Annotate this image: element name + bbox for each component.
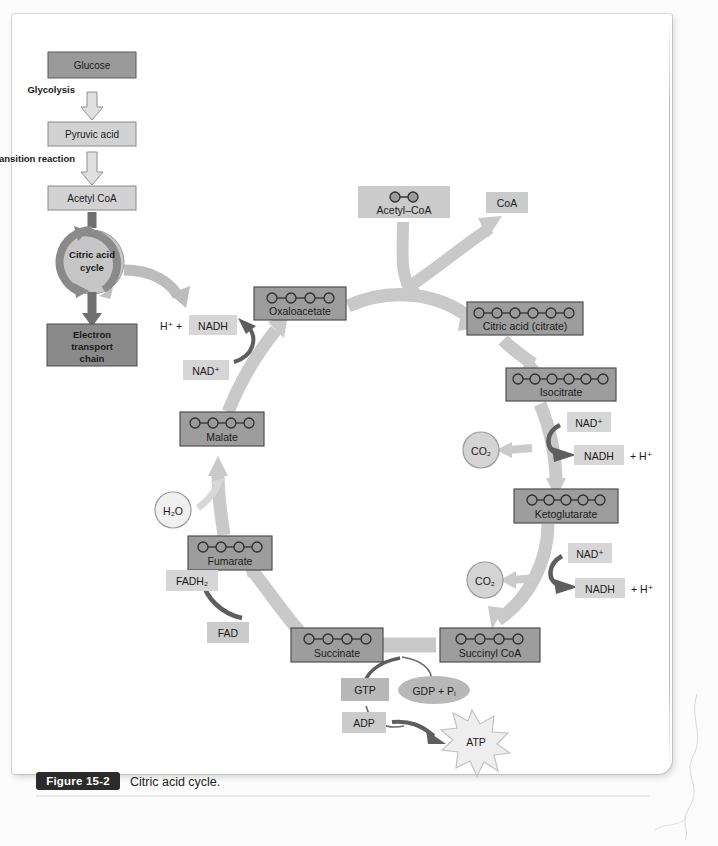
input-fad: FAD xyxy=(207,622,249,643)
overview-arrow-transition-reaction-label: Transition reaction xyxy=(0,153,75,164)
overview-step-cycle-label-line2: cycle xyxy=(80,262,104,273)
ring-arrow-coa-out xyxy=(404,216,502,290)
overview-flowchart: Glucose Glycolysis Pyruvic acid Transiti… xyxy=(0,52,190,366)
overview-step-glucose: Glucose xyxy=(48,52,136,78)
cofactor-nadh-isocitrate-suffix: + H⁺ xyxy=(630,450,652,462)
byproduct-co2-isocitrate-label: CO₂ xyxy=(471,445,491,457)
overview-arrow-cycle-to-right xyxy=(124,270,190,308)
cofactor-nadh-ketoglutarate-label: NADH xyxy=(585,583,615,595)
metabolite-oxaloacetate: Oxaloacetate xyxy=(254,287,346,320)
metabolite-isocitrate: Isocitrate xyxy=(506,368,616,401)
cofactor-nadh-ketoglutarate: NADH + H⁺ xyxy=(575,578,653,598)
energy-gdp-pi: GDP + Pᵢ xyxy=(398,676,470,704)
figure-number-label: Figure 15-2 xyxy=(46,775,110,787)
input-water: H₂O xyxy=(155,492,191,528)
input-adp: ATP ADP xyxy=(342,712,386,733)
cofactor-nadh-isocitrate-label: NADH xyxy=(584,450,614,462)
citric-acid-cycle-diagram: Glucose Glycolysis Pyruvic acid Transiti… xyxy=(0,0,718,846)
energy-gtp: GTP xyxy=(341,678,389,701)
overview-arrow-glycolysis-label: Glycolysis xyxy=(27,84,75,95)
overview-step-etc-label-line3: chain xyxy=(80,353,105,364)
metabolite-ketoglutarate: Ketoglutarate xyxy=(514,489,618,523)
overview-step-electron-transport-chain: Electron transport chain xyxy=(47,324,137,366)
byproduct-co2-ketoglutarate-label: CO₂ xyxy=(475,575,495,587)
cofactor-nad-plus-isocitrate-label: NAD⁺ xyxy=(575,417,603,429)
cofactor-nadh-isocitrate: NADH + H⁺ xyxy=(574,445,652,465)
cofactor-nad-plus-malate-label: NAD⁺ xyxy=(192,365,220,377)
overview-step-acetyl-coa-label: Acetyl CoA xyxy=(67,193,117,204)
metabolite-malate: Malate xyxy=(180,412,264,446)
cofactor-nadh-malate: H⁺ + NADH xyxy=(160,315,237,335)
cofactor-nadh-malate-label: NADH xyxy=(198,320,228,332)
metabolite-fumarate-label: Fumarate xyxy=(208,555,253,567)
metabolite-succinate-label: Succinate xyxy=(314,647,360,659)
byproduct-co2-isocitrate: CO₂ xyxy=(463,432,499,468)
overview-step-glucose-label: Glucose xyxy=(74,60,111,71)
input-acetyl-coa: Acetyl–CoA xyxy=(358,186,450,218)
input-water-label: H₂O xyxy=(163,505,183,517)
overview-connector-cycle-to-etc xyxy=(82,292,102,327)
cofactor-nad-plus-isocitrate: NAD⁺ xyxy=(567,412,611,432)
input-fad-label: FAD xyxy=(218,627,239,639)
cofactor-nad-plus-ketoglutarate-label: NAD⁺ xyxy=(576,548,604,560)
metabolite-isocitrate-label: Isocitrate xyxy=(540,386,583,398)
input-acetyl-coa-label: Acetyl–CoA xyxy=(377,204,432,216)
cofactor-fadh2: FADH₂ xyxy=(166,570,218,591)
energy-gdp-pi-label: GDP + Pᵢ xyxy=(412,685,456,697)
energy-atp: ATP xyxy=(441,710,510,776)
cofactor-fadh2-label: FADH₂ xyxy=(176,575,208,587)
metabolite-citric-acid: Citric acid (citrate) xyxy=(467,302,583,335)
overview-step-citric-acid-cycle: Citric acid cycle xyxy=(60,226,124,299)
overview-arrow-glycolysis: Glycolysis xyxy=(27,84,103,120)
metabolite-citric-acid-label: Citric acid (citrate) xyxy=(483,320,568,332)
output-coa: CoA xyxy=(486,192,528,213)
metabolite-malate-label: Malate xyxy=(206,431,238,443)
cofactor-nad-plus-ketoglutarate: NAD⁺ xyxy=(568,543,612,563)
overview-step-pyruvic-acid-label: Pyruvic acid xyxy=(65,129,119,140)
ring-arrow-co2-isocitrate-out xyxy=(496,442,532,458)
metabolite-succinate: Succinate xyxy=(291,628,383,662)
figure-caption: Figure 15-2 Citric acid cycle. xyxy=(36,772,650,796)
cofactor-nadh-ketoglutarate-suffix: + H⁺ xyxy=(631,583,653,595)
cofactor-nadh-malate-prefix: H⁺ + xyxy=(160,320,182,332)
overview-step-etc-label-line2: transport xyxy=(71,341,114,352)
figure-caption-text: Citric acid cycle. xyxy=(130,775,220,789)
metabolite-oxaloacetate-label: Oxaloacetate xyxy=(269,305,331,317)
metabolite-succinyl-coa-label: Succinyl CoA xyxy=(459,647,521,659)
overview-step-pyruvic-acid: Pyruvic acid xyxy=(48,122,136,146)
metabolite-fumarate: Fumarate xyxy=(188,536,272,570)
overview-arrow-transition-reaction: Transition reaction xyxy=(0,152,103,185)
input-adp-text: ADP xyxy=(353,717,375,729)
ring-arrow-oxaloacetate-to-citrate xyxy=(348,295,486,331)
overview-step-acetyl-coa: Acetyl CoA xyxy=(48,186,136,210)
byproduct-co2-ketoglutarate: CO₂ xyxy=(467,562,503,598)
overview-step-cycle-label-line1: Citric acid xyxy=(69,249,115,260)
energy-gtp-label: GTP xyxy=(354,684,376,696)
cofactor-nad-plus-malate: NAD⁺ xyxy=(183,360,229,380)
output-coa-label: CoA xyxy=(497,197,517,209)
overview-step-etc-label-line1: Electron xyxy=(73,329,111,340)
metabolite-ketoglutarate-label: Ketoglutarate xyxy=(535,508,598,520)
energy-atp-label: ATP xyxy=(466,736,486,748)
metabolite-succinyl-coa: Succinyl CoA xyxy=(440,628,540,662)
